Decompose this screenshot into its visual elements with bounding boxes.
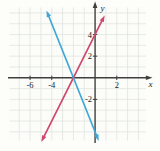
x-tick-label: -6 (27, 80, 34, 90)
coordinate-plane-figure: -6-4242-2xy (0, 0, 160, 151)
coordinate-plane-chart: -6-4242-2xy (0, 0, 160, 151)
y-tick-label: 4 (88, 30, 93, 40)
x-axis-title: x (148, 79, 153, 89)
y-tick-label: -2 (85, 94, 92, 104)
y-tick-label: 2 (88, 51, 92, 61)
y-axis-arrow-icon (93, 2, 98, 9)
x-tick-label: 2 (115, 80, 119, 90)
x-tick-label: -4 (48, 80, 56, 90)
y-axis-title: y (100, 3, 105, 13)
